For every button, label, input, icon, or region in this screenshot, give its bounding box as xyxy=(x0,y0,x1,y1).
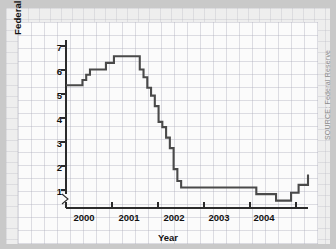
y-axis-break-icon xyxy=(62,194,68,204)
x-tick-marks xyxy=(66,202,296,208)
figure-paper: Federal Funds Rate (%) Year 7 6 5 4 3 2 … xyxy=(6,8,330,244)
source-note: SOURCE: Federal Reserve xyxy=(324,50,331,140)
y-tick-marks xyxy=(61,46,66,190)
data-series-line xyxy=(66,56,308,200)
chart-canvas xyxy=(18,22,318,244)
plot-panel: Federal Funds Rate (%) Year 7 6 5 4 3 2 … xyxy=(18,22,318,244)
figure-root: Federal Funds Rate (%) Year 7 6 5 4 3 2 … xyxy=(0,0,336,249)
